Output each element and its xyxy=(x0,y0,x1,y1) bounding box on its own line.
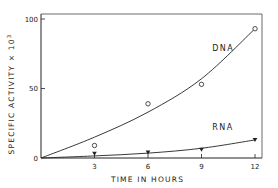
y-axis-label-exponent: 3 xyxy=(6,34,12,39)
x-ticks: 36912 xyxy=(92,154,259,171)
dna-point xyxy=(146,102,150,106)
x-tick-label: 12 xyxy=(251,163,260,171)
y-axis-label: SPECIFIC ACTIVITY × 103 xyxy=(6,34,16,155)
dna-point xyxy=(92,143,96,147)
rna-point xyxy=(146,150,151,154)
x-tick-label: 6 xyxy=(146,163,151,171)
plot-frame xyxy=(41,14,262,158)
dna-series-label: DNA xyxy=(212,44,234,53)
y-tick-label: 100 xyxy=(25,16,38,24)
y-tick-label: 50 xyxy=(29,85,38,93)
series-labels: DNARNA xyxy=(212,44,234,132)
rna-point xyxy=(92,152,97,156)
rna-series-label: RNA xyxy=(212,123,234,132)
y-axis-label-main: SPECIFIC ACTIVITY × 10 xyxy=(7,38,16,154)
dna-point xyxy=(253,27,257,31)
x-axis-label: TIME IN HOURS xyxy=(110,175,184,184)
dna-point xyxy=(199,82,203,86)
y-tick-label: 0 xyxy=(34,155,38,163)
chart: 36912 050100 DNARNA TIME IN HOURS SPECIF… xyxy=(0,0,278,188)
x-tick-label: 9 xyxy=(199,163,203,171)
x-tick-label: 3 xyxy=(92,163,96,171)
rna-point xyxy=(199,148,204,152)
y-ticks: 050100 xyxy=(25,16,45,163)
